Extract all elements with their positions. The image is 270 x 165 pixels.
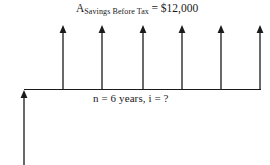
year-2-inflow-arrow [99, 25, 106, 89]
annuity-value-label: ASavings Before Tax= $12,000 [76, 3, 198, 16]
cash-flow-canvas [0, 0, 270, 165]
year-3-inflow-arrowhead [140, 25, 147, 33]
inflow-arrow-group [60, 25, 264, 89]
timeline-note-label: n = 6 years, i = ? [93, 93, 169, 104]
annuity-subscript: Savings Before Tax [84, 7, 149, 16]
year-6-inflow-arrowhead [257, 25, 264, 33]
year-2-inflow-arrowhead [99, 25, 106, 33]
year-4-inflow-arrow [179, 25, 186, 89]
year-5-inflow-arrow [218, 25, 225, 89]
cash-flow-diagram: ASavings Before Tax= $12,000 n = 6 years… [0, 0, 270, 165]
year-1-inflow-arrow [60, 25, 67, 89]
year-3-inflow-arrow [140, 25, 147, 89]
initial-investment-arrow [21, 90, 28, 165]
year-1-inflow-arrowhead [60, 25, 67, 33]
year-5-inflow-arrowhead [218, 25, 225, 33]
year-6-inflow-arrow [257, 25, 264, 89]
initial-investment-arrowhead [21, 90, 28, 98]
year-4-inflow-arrowhead [179, 25, 186, 33]
annuity-equals-value: = $12,000 [151, 2, 198, 14]
